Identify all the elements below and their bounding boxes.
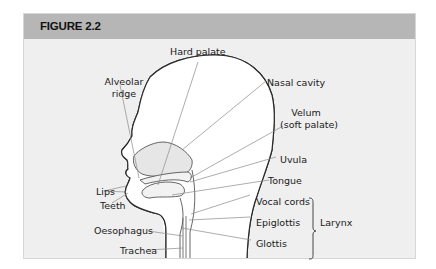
vocal-tract-diagram <box>0 0 436 269</box>
label-vocal-cords: Vocal cords <box>256 196 310 207</box>
label-epiglottis: Epiglottis <box>256 217 300 228</box>
larynx-bracket <box>309 198 316 259</box>
label-alveolar-ridge-line2: ridge <box>101 88 147 99</box>
label-velum-line2: (soft palate) <box>280 119 332 130</box>
label-lips: Lips <box>96 186 115 197</box>
label-oesophagus: Oesophagus <box>94 225 153 236</box>
label-uvula: Uvula <box>280 154 307 165</box>
label-hard-palate: Hard palate <box>170 46 226 57</box>
label-larynx: Larynx <box>320 217 352 228</box>
label-alveolar-ridge-line1: Alveolar <box>101 76 147 87</box>
label-glottis: Glottis <box>256 238 287 249</box>
label-tongue: Tongue <box>268 175 302 186</box>
label-nasal-cavity: Nasal cavity <box>267 77 325 88</box>
label-trachea: Trachea <box>120 245 157 256</box>
label-velum-line1: Velum <box>280 107 332 118</box>
label-teeth: Teeth <box>100 200 126 211</box>
